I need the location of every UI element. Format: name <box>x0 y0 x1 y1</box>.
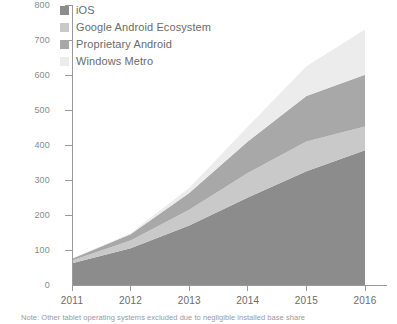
legend-label-proprietary-android: Proprietary Android <box>76 39 172 50</box>
legend-item-google-android-ecosystem[interactable]: Google Android Ecosystem <box>60 19 310 36</box>
tablet-os-installed-base-chart: iOS Google Android Ecosystem Proprietary… <box>0 0 397 324</box>
legend-label-google-android-ecosystem: Google Android Ecosystem <box>76 22 211 33</box>
x-tick-label-2015: 2015 <box>286 295 326 306</box>
y-tick-label-700: 700 <box>24 35 50 45</box>
legend-swatch-google-android-ecosystem <box>60 23 69 32</box>
y-tick-label-300: 300 <box>24 175 50 185</box>
y-tick-label-100: 100 <box>24 245 50 255</box>
legend-item-windows-metro[interactable]: Windows Metro <box>60 53 310 70</box>
chart-footnote: Note: Other tablet operating systems exc… <box>21 313 305 322</box>
legend-label-windows-metro: Windows Metro <box>76 56 153 67</box>
y-tick-label-0: 0 <box>24 280 50 290</box>
legend-swatch-proprietary-android <box>60 40 69 49</box>
x-tick-label-2011: 2011 <box>52 295 92 306</box>
x-tick-label-2014: 2014 <box>228 295 268 306</box>
y-tick-label-500: 500 <box>24 105 50 115</box>
x-tick-label-2016: 2016 <box>345 295 385 306</box>
legend-label-ios: iOS <box>76 5 95 16</box>
x-tick-label-2012: 2012 <box>111 295 151 306</box>
chart-legend: iOS Google Android Ecosystem Proprietary… <box>60 2 310 70</box>
x-tick-label-2013: 2013 <box>169 295 209 306</box>
legend-item-proprietary-android[interactable]: Proprietary Android <box>60 36 310 53</box>
legend-swatch-ios <box>60 6 69 15</box>
y-tick-label-200: 200 <box>24 210 50 220</box>
legend-swatch-windows-metro <box>60 57 69 66</box>
y-tick-label-600: 600 <box>24 70 50 80</box>
y-tick-label-400: 400 <box>24 140 50 150</box>
legend-item-ios[interactable]: iOS <box>60 2 310 19</box>
y-tick-label-800: 800 <box>24 0 50 10</box>
